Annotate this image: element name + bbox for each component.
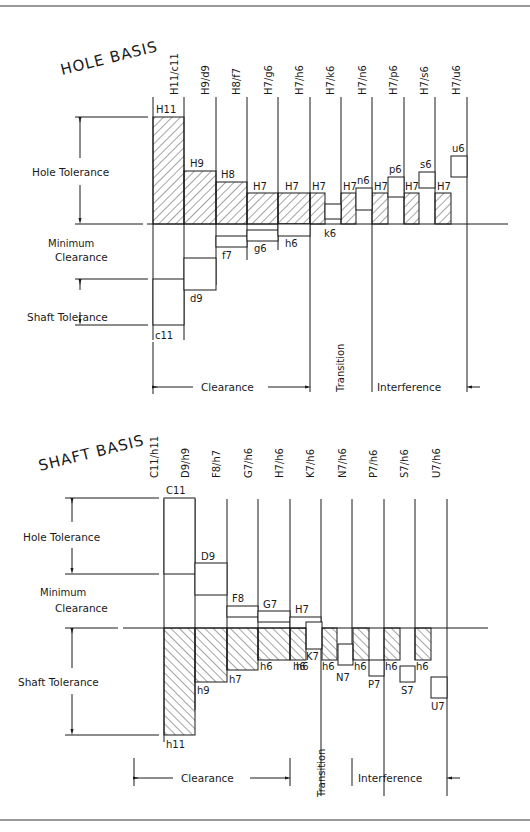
hole-zone-H7	[404, 193, 419, 224]
column-header: C11/h11	[149, 436, 160, 478]
shaft-zone-k6	[325, 204, 341, 219]
hole-label: H9	[190, 158, 204, 169]
shaft-label: h6	[416, 661, 429, 672]
column-header: H9/d9	[200, 65, 211, 95]
minimum-label: Minimum	[48, 238, 94, 249]
shaft-label: h6	[354, 661, 367, 672]
shaft-label: h11	[166, 739, 185, 750]
shaft-label: h6	[285, 238, 298, 249]
column-header: K7/h6	[305, 449, 316, 478]
hole-zone-U7	[431, 677, 447, 698]
hole-zone-P7	[369, 660, 384, 676]
hole-label: H7	[285, 181, 299, 192]
hole-label: H7	[405, 181, 419, 192]
hole-label: H7	[295, 604, 309, 615]
column-header: H7/g6	[263, 65, 274, 95]
shaft-zone-f7	[216, 236, 247, 247]
shaft-label: c11	[155, 330, 173, 341]
shaft-zone-d9	[184, 258, 216, 290]
hole-label: C11	[166, 485, 186, 496]
shaft-label: n6	[357, 175, 370, 186]
shaft-label: h6	[260, 661, 273, 672]
column-header: H7/h6	[294, 65, 305, 95]
hole-label: N7	[336, 672, 350, 683]
shaft-basis-section: SHAFT BASIS C11/h11 D9/h9 F8/h7 G7/h6 H7…	[18, 431, 488, 798]
hole-label: D9	[201, 551, 215, 562]
column-header: H7/s6	[419, 66, 430, 95]
hole-basis-column-lines	[153, 97, 467, 392]
shaft-zone-h6	[384, 628, 400, 660]
hole-basis-section: HOLE BASIS H11/c11 H9/d9 H8/f7 H7/g6 H7/…	[27, 37, 508, 394]
column-header: S7/h6	[399, 449, 410, 478]
shaft-label: g6	[254, 243, 267, 254]
hole-basis-title: HOLE BASIS	[59, 37, 160, 79]
shaft-tolerance-label: Shaft Tolerance	[27, 311, 108, 323]
shaft-zone-s6	[419, 172, 435, 188]
hole-zone-H9	[184, 171, 216, 224]
column-header: U7/h6	[431, 448, 442, 478]
hole-tolerance-label: Hole Tolerance	[23, 531, 100, 543]
shaft-zone-h6	[258, 628, 290, 660]
shaft-label: f7	[222, 250, 232, 261]
hole-zone-G7	[258, 611, 290, 622]
hole-zone-H11	[153, 117, 184, 224]
shaft-label: h9	[197, 685, 210, 696]
shaft-zone-h7	[227, 628, 258, 670]
hole-label: U7	[431, 701, 445, 712]
hole-label: H7	[343, 181, 357, 192]
hole-zone-H7	[310, 193, 325, 224]
transition-range-label: Transition	[316, 749, 327, 798]
hole-label: F8	[232, 593, 244, 604]
column-header: F8/h7	[211, 450, 222, 478]
shaft-label: h6	[293, 661, 306, 672]
hole-basis-column-headers: H11/c11 H9/d9 H8/f7 H7/g6 H7/h6 H7/k6 H7…	[169, 53, 462, 95]
column-header: H7/h6	[274, 448, 285, 478]
shaft-basis-column-headers: C11/h11 D9/h9 F8/h7 G7/h6 H7/h6 K7/h6 N7…	[149, 436, 442, 478]
transition-range-label: Transition	[335, 344, 346, 393]
column-header: H11/c11	[169, 53, 180, 95]
fits-diagram: HOLE BASIS H11/c11 H9/d9 H8/f7 H7/g6 H7/…	[0, 0, 530, 832]
shaft-label: h7	[229, 674, 242, 685]
shaft-label: k6	[324, 228, 336, 239]
hole-zone-H7	[247, 193, 278, 224]
hole-tolerance-label: Hole Tolerance	[32, 166, 109, 178]
hole-zone-H7	[435, 193, 451, 224]
shaft-zone-h6	[353, 628, 369, 660]
hole-zone-D9	[195, 563, 227, 595]
shaft-tolerance-label: Shaft Tolerance	[18, 676, 99, 688]
shaft-label: p6	[389, 164, 402, 175]
clearance-label: Clearance	[55, 602, 108, 614]
shaft-zone-h6	[278, 224, 310, 236]
column-header: G7/h6	[243, 448, 254, 478]
column-header: H7/p6	[388, 65, 399, 95]
column-header: P7/h6	[368, 450, 379, 478]
hole-label: S7	[401, 685, 414, 696]
shaft-label: d9	[190, 293, 203, 304]
hole-label: H8	[221, 169, 235, 180]
column-header: H7/k6	[325, 66, 336, 95]
shaft-zone-h6	[415, 628, 431, 660]
hole-zone-H8	[216, 182, 247, 224]
hole-zone-K7	[306, 622, 322, 649]
hole-zone-F8	[227, 606, 258, 617]
hole-label: H7	[253, 181, 267, 192]
clearance-range-label: Clearance	[181, 772, 234, 784]
shaft-label: h6	[385, 661, 398, 672]
shaft-zone-h6	[290, 628, 306, 660]
clearance-range-label: Clearance	[201, 381, 254, 393]
hole-label: H7	[374, 181, 388, 192]
shaft-zone-h9	[195, 628, 227, 682]
column-header: H8/f7	[231, 68, 242, 95]
hole-zone-S7	[400, 666, 415, 682]
shaft-zone-p6	[388, 177, 404, 197]
minimum-label: Minimum	[40, 587, 86, 598]
shaft-zone-n6	[356, 188, 372, 210]
shaft-label: u6	[452, 143, 465, 154]
shaft-zone-u6	[451, 156, 467, 177]
hole-zone-H7	[372, 193, 388, 224]
hole-zone-H7	[278, 193, 310, 224]
column-header: H7/u6	[451, 65, 462, 95]
shaft-zone-g6	[247, 230, 278, 241]
clearance-label: Clearance	[55, 251, 108, 263]
shaft-basis-title: SHAFT BASIS	[37, 431, 147, 475]
